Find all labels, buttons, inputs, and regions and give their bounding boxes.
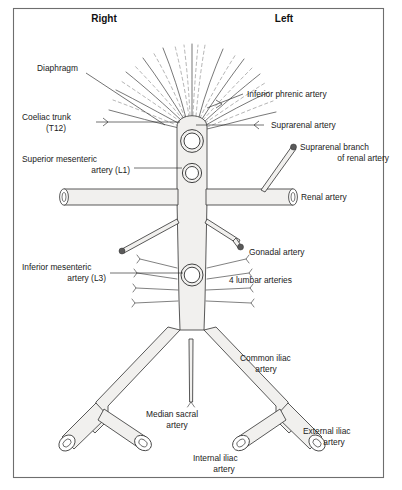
label-internal-iliac-line2: artery xyxy=(213,464,235,474)
right-gonadal-artery-tip xyxy=(119,248,125,254)
suprarenal-branch-tip xyxy=(291,144,297,150)
label-coeliac-trunk-line1: Coeliac trunk xyxy=(22,112,72,122)
left-gonadal-artery-tip xyxy=(238,244,244,250)
label-suprarenal-artery: Suprarenal artery xyxy=(271,120,337,130)
anatomy-figure: Right Left Diaphragm Coeliac trunk (T12)… xyxy=(0,0,402,490)
label-lumbar-arteries: 4 lumbar arteries xyxy=(229,275,292,285)
label-superior-mesenteric-line1: Superior mesenteric xyxy=(22,154,97,164)
label-median-sacral-line2: artery xyxy=(166,420,188,430)
abdominal-aorta-diagram: Right Left Diaphragm Coeliac trunk (T12)… xyxy=(0,0,402,490)
label-external-iliac-line1: External iliac xyxy=(303,426,350,436)
header-right: Right xyxy=(91,13,117,24)
label-coeliac-trunk-line2: (T12) xyxy=(46,123,66,133)
label-common-iliac-line1: Common iliac xyxy=(240,353,291,363)
label-inferior-mesenteric-line2: artery (L3) xyxy=(67,273,106,283)
label-suprarenal-branch-line1: Suprarenal branch xyxy=(300,142,369,152)
label-common-iliac-line2: artery xyxy=(255,364,277,374)
label-inferior-phrenic: Inferior phrenic artery xyxy=(247,89,327,99)
header-left: Left xyxy=(275,13,294,24)
label-inferior-mesenteric-line1: Inferior mesenteric xyxy=(22,262,91,272)
label-gonadal-artery: Gonadal artery xyxy=(249,247,305,257)
label-diaphragm: Diaphragm xyxy=(37,63,78,73)
label-renal-artery: Renal artery xyxy=(301,192,347,202)
label-internal-iliac-line1: Internal iliac xyxy=(193,453,238,463)
label-superior-mesenteric-line2: artery (L1) xyxy=(91,165,130,175)
label-external-iliac-line2: artery xyxy=(323,437,345,447)
label-suprarenal-branch-line2: of renal artery xyxy=(337,153,389,163)
label-median-sacral-line1: Median sacral xyxy=(146,409,198,419)
